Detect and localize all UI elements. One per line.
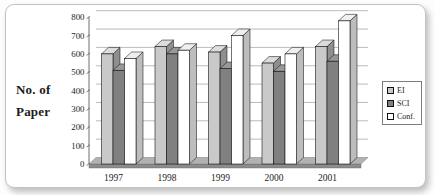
legend-item-sci: SCI [387,99,418,108]
bar-ei-1999 [209,52,221,164]
y-tick-300 [87,108,91,111]
x-tick-label-1997: 1997 [104,173,123,183]
legend-marker-sci [387,100,394,107]
y-tick-400 [87,90,91,93]
bar-sci-1999 [220,69,232,164]
x-tick-label-2000: 2000 [265,173,284,183]
legend-marker-conf [387,113,394,120]
bar-conf-1998 [178,50,190,164]
bar-ei-1998 [155,47,167,164]
y-tick-label-0: 0 [80,159,85,169]
y-tick-label-500: 500 [71,67,85,77]
bar-conf-1999-side [243,29,250,164]
legend-label-sci: SCI [397,99,409,108]
y-tick-800 [87,16,91,19]
y-tick-label-100: 100 [71,141,85,151]
y-tick-600 [87,53,91,56]
y-tick-200 [87,126,91,129]
legend-marker-ei [387,87,394,94]
bar-conf-1997 [125,58,137,164]
legend-label-conf: Conf. [397,112,415,121]
bar-conf-2000 [285,54,297,164]
floor-front-face [89,164,361,168]
y-tick-700 [87,35,91,38]
bar-sci-1997 [113,70,125,164]
bar-sci-2000 [274,71,286,164]
figure-root: { "chart_data": { "type": "bar", "effect… [0,0,435,195]
legend-item-conf: Conf. [387,112,418,121]
figure-card: 0100200300400500600700800199719981999200… [5,4,426,188]
x-tick-label-2001: 2001 [318,173,337,183]
x-tick-label-1999: 1999 [211,173,230,183]
y-tick-label-800: 800 [71,12,85,22]
bar-conf-1999 [232,36,244,164]
bar-conf-2000-side [297,47,304,164]
y-tick-100 [87,145,91,148]
y-tick-label-700: 700 [71,31,85,41]
bar-conf-1998-side [190,44,197,164]
bar-sci-1998 [167,54,179,164]
y-tick-500 [87,71,91,74]
y-tick-label-200: 200 [71,122,85,132]
y-axis-title: No. of Paper [16,79,76,123]
bar-sci-2001 [327,61,339,164]
bar-ei-1997 [102,54,114,164]
bar-ei-2001 [316,47,328,164]
x-tick-label-1998: 1998 [158,173,177,183]
legend-label-ei: EI [397,86,405,95]
bar-conf-2001-side [350,14,357,164]
legend: EISCIConf. [382,81,422,125]
bar-ei-2000 [262,63,274,164]
bar-conf-2001 [339,21,351,164]
legend-item-ei: EI [387,86,418,95]
figure-card-inner: 0100200300400500600700800199719981999200… [6,5,425,187]
y-axis-title-line1: No. of [16,79,76,101]
y-tick-label-600: 600 [71,49,85,59]
y-axis-title-line2: Paper [16,101,76,123]
bar-conf-1997-side [136,52,143,164]
